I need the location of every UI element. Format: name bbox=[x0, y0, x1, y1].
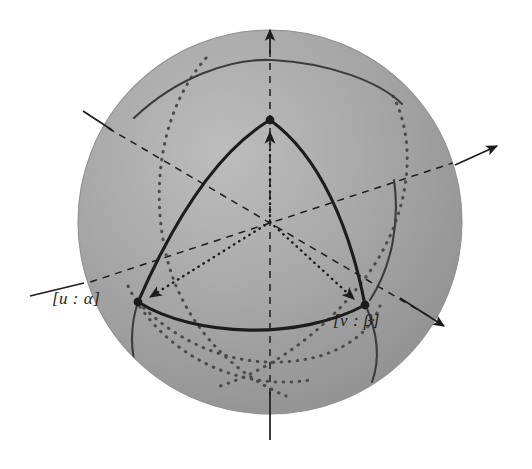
vertex-right-dot bbox=[361, 301, 370, 310]
vertex-label-u: [u : α] bbox=[52, 290, 100, 307]
vertex-label-v: [v : β] bbox=[333, 312, 380, 329]
vertex-left-dot bbox=[134, 298, 143, 307]
vertex-top-dot bbox=[266, 116, 275, 125]
axis-right-arrow bbox=[455, 146, 497, 165]
figure-container: [u : α] [v : β] bbox=[0, 0, 532, 469]
sphere-diagram-svg bbox=[0, 0, 532, 469]
